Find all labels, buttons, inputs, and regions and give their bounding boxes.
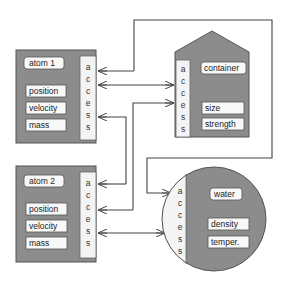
object-atom-2: a c c e s s atom 2 position velocity mas… — [16, 166, 96, 262]
svg-text:s: s — [86, 110, 90, 120]
object-container: a c c e s s container size strength — [175, 31, 249, 137]
field-mass: mass — [29, 120, 49, 130]
field-strength: strength — [205, 119, 236, 129]
access-strip — [160, 165, 186, 275]
field-density: density — [211, 219, 239, 229]
field-size: size — [205, 103, 220, 113]
svg-text:s: s — [181, 124, 185, 134]
field-velocity: velocity — [29, 221, 58, 231]
object-title: water — [213, 189, 235, 199]
svg-text:s: s — [181, 112, 185, 122]
svg-text:s: s — [86, 122, 90, 132]
object-diagram: a c c e s s atom 1 position velocity mas… — [0, 0, 289, 288]
field-position: position — [29, 86, 59, 96]
object-title: atom 2 — [29, 176, 55, 186]
object-title: container — [204, 63, 239, 73]
svg-text:s: s — [86, 238, 90, 248]
svg-text:e: e — [181, 100, 186, 110]
svg-text:s: s — [178, 246, 182, 256]
object-title: atom 1 — [29, 58, 55, 68]
svg-text:s: s — [86, 226, 90, 236]
svg-text:e: e — [86, 98, 91, 108]
svg-text:a: a — [86, 62, 91, 72]
field-mass: mass — [29, 238, 49, 248]
svg-text:a: a — [178, 186, 183, 196]
field-temperature: temper. — [211, 237, 239, 247]
field-velocity: velocity — [29, 103, 58, 113]
connector-atom2-to-container — [133, 103, 174, 210]
object-water: a c c e s s water density temper. — [160, 165, 266, 275]
svg-text:e: e — [178, 222, 183, 232]
svg-text:a: a — [86, 178, 91, 188]
object-atom-1: a c c e s s atom 1 position velocity mas… — [16, 50, 96, 143]
svg-text:e: e — [86, 214, 91, 224]
svg-text:s: s — [178, 234, 182, 244]
connector-to-atom1-lower — [98, 117, 126, 184]
svg-text:a: a — [181, 64, 186, 74]
field-position: position — [29, 204, 59, 214]
